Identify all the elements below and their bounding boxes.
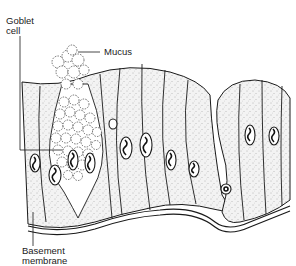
epithelium-right (217, 80, 290, 223)
goblet-cell-label-line2: cell (6, 26, 34, 36)
basement-membrane-label-line2: membrane (22, 256, 67, 266)
goblet-cell-label: Goblet cell (6, 16, 34, 36)
basement-membrane-label: Basement membrane (22, 246, 67, 266)
mucus-label: Mucus (104, 47, 132, 57)
